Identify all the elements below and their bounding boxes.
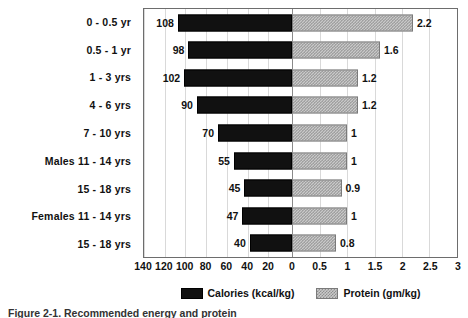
x-tick-label: 60 <box>221 260 233 272</box>
bar-value-calories: 70 <box>202 127 214 139</box>
bar-calories <box>184 69 292 86</box>
bar-row: 701 <box>144 119 457 147</box>
x-tick-label: 120 <box>155 260 173 272</box>
bar-value-calories: 40 <box>234 237 246 249</box>
bar-value-calories: 102 <box>163 72 181 84</box>
bar-row: 981.6 <box>144 37 457 65</box>
x-tick-label: 2.5 <box>423 260 438 272</box>
bar-protein <box>292 125 347 142</box>
x-tick-label: 80 <box>200 260 212 272</box>
bar-calories <box>242 207 292 224</box>
bar-protein <box>292 152 347 169</box>
bar-value-protein: 1.2 <box>362 99 377 111</box>
bar-calories <box>244 180 292 197</box>
bar-protein <box>292 69 358 86</box>
x-tick-label: 20 <box>262 260 274 272</box>
bar-value-protein: 1 <box>351 210 357 222</box>
x-tick-label: 140 <box>134 260 152 272</box>
bar-value-protein: 1.2 <box>362 72 377 84</box>
bar-value-calories: 45 <box>229 182 241 194</box>
bar-value-calories: 90 <box>181 99 193 111</box>
bar-protein <box>292 14 413 31</box>
x-axis-ticks: 1401201008060402000.511.522.53 <box>143 260 458 276</box>
bar-row: 551 <box>144 147 457 175</box>
category-label: 1 - 3 yrs <box>0 64 138 92</box>
figure-container: 0 - 0.5 yr0.5 - 1 yr1 - 3 yrs4 - 6 yrs7 … <box>0 0 468 318</box>
bar-calories <box>218 125 292 142</box>
bar-protein <box>292 235 336 252</box>
bar-value-calories: 98 <box>173 44 185 56</box>
x-tick-label: 1 <box>344 260 350 272</box>
x-tick-label: 3 <box>455 260 461 272</box>
bar-value-protein: 1.6 <box>384 44 399 56</box>
category-label: 0.5 - 1 yr <box>0 36 138 64</box>
x-tick-label: 2 <box>400 260 406 272</box>
bar-protein <box>292 207 347 224</box>
bar-value-protein: 1 <box>351 127 357 139</box>
category-label: 15 - 18 yrs <box>0 175 138 203</box>
bar-rows: 1082.2981.61021.2901.2701551450.9471400.… <box>144 9 457 257</box>
x-tick-label: 40 <box>241 260 253 272</box>
bar-row: 400.8 <box>144 230 457 258</box>
category-label: Males 11 - 14 yrs <box>0 147 138 175</box>
bar-row: 471 <box>144 202 457 230</box>
bar-value-calories: 55 <box>218 155 230 167</box>
bar-value-calories: 47 <box>227 210 239 222</box>
bar-calories <box>234 152 292 169</box>
bar-row: 1082.2 <box>144 9 457 37</box>
figure-caption: Figure 2-1. Recommended energy and prote… <box>8 307 448 318</box>
category-label: 4 - 6 yrs <box>0 91 138 119</box>
bar-row: 901.2 <box>144 92 457 120</box>
chart-legend: Calories (kcal/kg) Protein (gm/kg) <box>143 286 458 300</box>
bar-protein <box>292 97 358 114</box>
bar-value-protein: 0.8 <box>340 237 355 249</box>
bar-calories <box>178 14 292 31</box>
bar-value-calories: 108 <box>156 17 174 29</box>
category-label: 0 - 0.5 yr <box>0 8 138 36</box>
legend-swatch-calories <box>181 288 203 299</box>
legend-item-calories: Calories (kcal/kg) <box>181 287 295 299</box>
plot-area: 1082.2981.61021.2901.2701551450.9471400.… <box>143 8 458 258</box>
bar-protein <box>292 180 341 197</box>
category-label: 15 - 18 yrs <box>0 230 138 258</box>
bar-value-protein: 1 <box>351 155 357 167</box>
x-tick-label: 0.5 <box>312 260 327 272</box>
bar-calories <box>197 97 292 114</box>
bar-value-protein: 0.9 <box>346 182 361 194</box>
bar-value-protein: 2.2 <box>417 17 432 29</box>
bar-row: 1021.2 <box>144 64 457 92</box>
legend-swatch-protein <box>316 288 338 299</box>
category-axis: 0 - 0.5 yr0.5 - 1 yr1 - 3 yrs4 - 6 yrs7 … <box>0 8 138 258</box>
bar-calories <box>188 42 292 59</box>
bar-row: 450.9 <box>144 174 457 202</box>
bar-calories <box>250 235 292 252</box>
legend-label-protein: Protein (gm/kg) <box>343 287 420 299</box>
bar-protein <box>292 42 380 59</box>
x-tick-label: 100 <box>176 260 194 272</box>
x-tick-label: 1.5 <box>368 260 383 272</box>
legend-label-calories: Calories (kcal/kg) <box>208 287 295 299</box>
x-tick-label: 0 <box>289 260 295 272</box>
legend-item-protein: Protein (gm/kg) <box>316 287 420 299</box>
category-label: 7 - 10 yrs <box>0 119 138 147</box>
category-label: Females 11 - 14 yrs <box>0 202 138 230</box>
